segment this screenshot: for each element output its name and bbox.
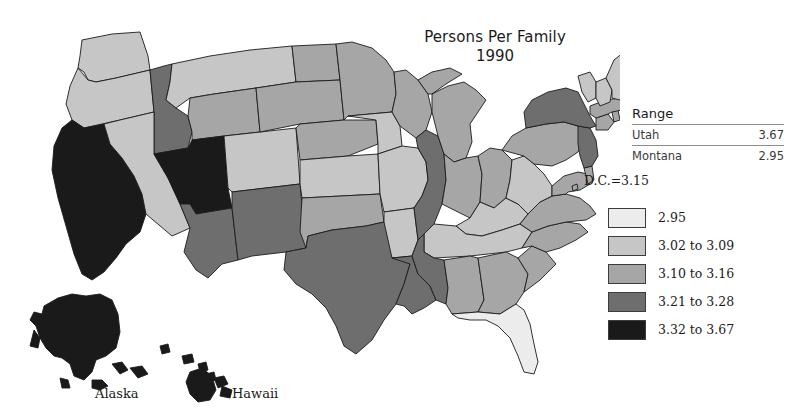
- legend-swatch-icon: [608, 320, 646, 340]
- range-table-header: Range: [632, 106, 784, 124]
- range-table: Range Utah 3.67 Montana 2.95: [632, 106, 784, 166]
- map-label-dc-value: D.C.=3.15: [584, 173, 649, 188]
- range-max-value: 3.67: [758, 128, 784, 142]
- state-CO[interactable]: [224, 128, 300, 192]
- map-legend: 2.95 3.02 to 3.09 3.10 to 3.16 3.21 to 3…: [608, 205, 734, 345]
- legend-swatch-icon: [608, 264, 646, 284]
- legend-item[interactable]: 3.32 to 3.67: [608, 317, 734, 342]
- legend-swatch-icon: [608, 292, 646, 312]
- range-max-name: Utah: [632, 128, 659, 142]
- legend-item[interactable]: 3.21 to 3.28: [608, 289, 734, 314]
- legend-item[interactable]: 3.02 to 3.09: [608, 233, 734, 258]
- legend-swatch-icon: [608, 208, 646, 228]
- range-table-row-max: Utah 3.67: [632, 125, 784, 145]
- legend-label: 3.02 to 3.09: [658, 238, 734, 253]
- state-MN[interactable]: [336, 42, 396, 120]
- state-HI-group: [160, 344, 232, 402]
- state-AK[interactable]: [30, 294, 148, 390]
- state-AL[interactable]: [444, 256, 484, 314]
- map-svg: [0, 8, 620, 408]
- choropleth-map-page: Persons Per Family 1990: [0, 0, 797, 420]
- state-FL[interactable]: [452, 304, 538, 374]
- legend-label: 2.95: [658, 210, 686, 225]
- state-NJ[interactable]: [578, 126, 598, 168]
- range-min-value: 2.95: [758, 149, 784, 163]
- legend-item[interactable]: 2.95: [608, 205, 734, 230]
- legend-item[interactable]: 3.10 to 3.16: [608, 261, 734, 286]
- legend-label: 3.21 to 3.28: [658, 294, 734, 309]
- map-label-hawaii: Hawaii: [232, 386, 278, 401]
- range-table-row-min: Montana 2.95: [632, 146, 784, 166]
- legend-label: 3.32 to 3.67: [658, 322, 734, 337]
- map-label-alaska: Alaska: [95, 386, 139, 401]
- range-min-name: Montana: [632, 149, 682, 163]
- legend-swatch-icon: [608, 236, 646, 256]
- state-NE[interactable]: [296, 120, 378, 160]
- state-AZ[interactable]: [180, 204, 238, 278]
- state-ND[interactable]: [292, 44, 340, 82]
- state-AK-group: [30, 294, 148, 390]
- us-choropleth-map: Alaska Hawaii: [0, 8, 620, 408]
- state-NM[interactable]: [232, 184, 306, 260]
- state-KS[interactable]: [300, 154, 380, 198]
- legend-label: 3.10 to 3.16: [658, 266, 734, 281]
